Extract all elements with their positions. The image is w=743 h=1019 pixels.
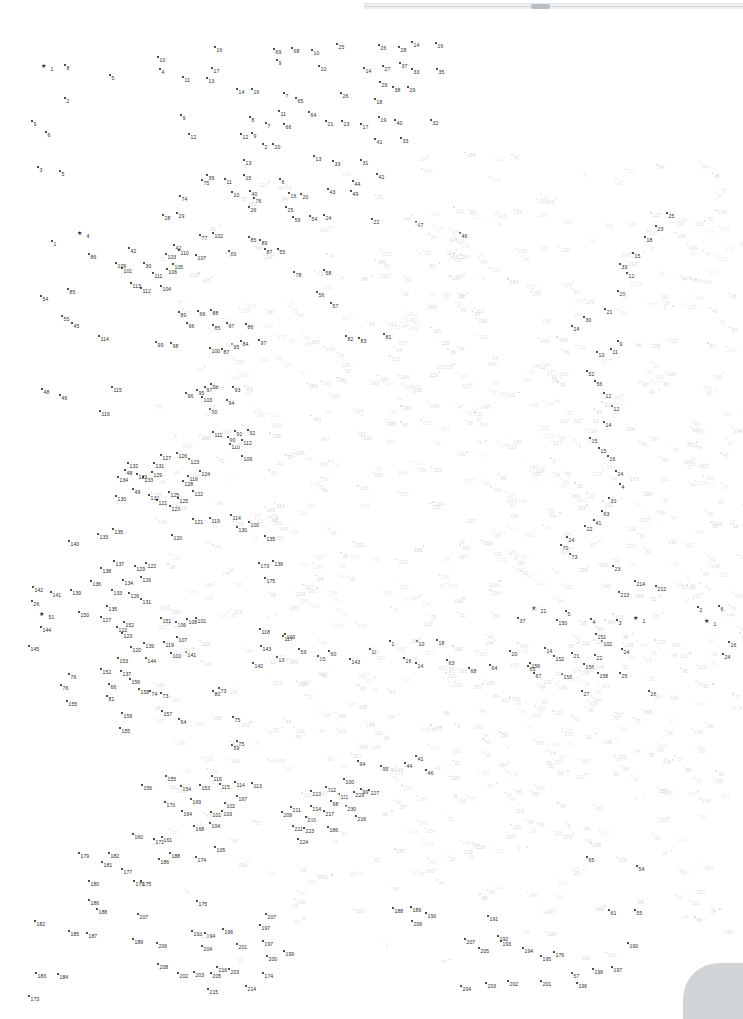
dot-number-label: 117	[561, 419, 569, 424]
dot-marker	[455, 723, 457, 725]
dot-marker	[468, 209, 470, 211]
dot-marker	[264, 535, 266, 537]
dot-marker	[113, 560, 115, 562]
dot-number-label: 25	[450, 857, 456, 862]
dot-marker	[203, 813, 205, 815]
dot-number-label: 29	[651, 651, 657, 656]
dot-marker	[569, 437, 571, 439]
dot-number-label: 13	[316, 157, 322, 162]
dot-number-label: 186	[330, 828, 339, 833]
dot-marker	[452, 645, 454, 647]
dot-number-label: 63	[328, 757, 334, 762]
dot-number-label: 45	[516, 702, 522, 707]
dot-number-label: 109	[619, 727, 628, 732]
dot-number-label: 187	[266, 310, 275, 315]
dot-number-label: 158	[272, 434, 281, 439]
dot-number-label: 223	[273, 681, 282, 686]
dot-number-label: 17	[393, 608, 399, 613]
dot-number-label: 39	[310, 818, 316, 823]
dot-number-label: 52	[646, 549, 652, 554]
dot-marker	[430, 724, 432, 726]
dot-marker	[193, 971, 195, 973]
dot-marker	[106, 605, 108, 607]
dot-marker	[657, 520, 659, 522]
dot-number-label: 178	[477, 253, 486, 258]
dot-number-label: 203	[196, 973, 205, 978]
dot-marker	[737, 554, 739, 556]
dot-number-label: 63	[389, 690, 395, 695]
dot-marker	[572, 833, 574, 835]
dot-marker	[495, 639, 497, 641]
dot-number-label: 33	[477, 412, 483, 417]
dot-marker	[534, 531, 536, 533]
dot-marker	[482, 683, 484, 685]
dot-marker	[390, 606, 392, 608]
dot-number-label: 166	[430, 404, 439, 409]
dot-marker	[274, 502, 276, 504]
dot-number-label: 65	[298, 99, 304, 104]
dot-marker	[234, 430, 236, 432]
dot-marker	[313, 341, 315, 343]
dot-marker	[143, 262, 145, 264]
dot-number-label: 9	[517, 847, 520, 852]
dot-marker	[624, 543, 626, 545]
dot-number-label: 95	[529, 370, 535, 375]
dot-marker	[598, 829, 600, 831]
dot-number-label: 129	[283, 363, 292, 368]
dot-number-label: 62	[232, 742, 238, 747]
dot-marker	[398, 583, 400, 585]
dot-marker	[191, 443, 193, 445]
dot-number-label: 110	[173, 556, 181, 561]
dot-marker	[583, 299, 585, 301]
dot-marker	[484, 679, 486, 681]
dot-number-label: 55	[64, 317, 70, 322]
dot-marker	[675, 836, 677, 838]
dot-marker	[497, 935, 499, 937]
dot-marker	[547, 211, 549, 213]
dot-number-label: 230	[329, 591, 338, 596]
dot-number-label: 3	[40, 168, 43, 173]
dot-marker	[434, 363, 436, 365]
dot-number-label: 198	[584, 839, 593, 844]
dot-number-label: 202	[180, 974, 189, 979]
dot-marker	[345, 335, 347, 337]
dot-number-label: 77	[470, 797, 476, 802]
dot-marker	[538, 402, 540, 404]
dot-marker	[31, 600, 33, 602]
dot-number-label: 131	[324, 285, 333, 290]
dot-marker	[614, 757, 616, 759]
dot-marker	[141, 784, 143, 786]
dot-marker	[477, 334, 479, 336]
dot-number-label: 62	[618, 181, 624, 186]
dot-number-label: 61	[611, 911, 617, 916]
dot-number-label: 212	[628, 262, 637, 267]
dot-number-label: 10	[459, 294, 465, 299]
dot-number-label: 25	[690, 584, 696, 589]
dot-marker	[527, 665, 529, 667]
dot-marker	[476, 518, 478, 520]
dot-marker	[487, 915, 489, 917]
dot-number-label: 73	[696, 446, 702, 451]
dot-marker	[565, 823, 567, 825]
dot-marker	[140, 880, 142, 882]
dot-number-label: 12	[539, 365, 545, 370]
dot-marker	[353, 908, 355, 910]
dot-number-label: 30	[708, 639, 714, 644]
dot-marker	[478, 706, 480, 708]
dot-number-label: 114	[446, 251, 454, 256]
dot-marker	[595, 633, 597, 635]
dot-marker	[623, 642, 625, 644]
dot-marker	[542, 524, 544, 526]
dot-marker	[120, 670, 122, 672]
dot-number-label: 83	[361, 339, 367, 344]
dot-number-label: 81	[386, 335, 392, 340]
dot-number-label: 18	[377, 100, 383, 105]
dot-number-label: 30	[690, 483, 696, 488]
dot-number-label: 127	[501, 698, 510, 703]
dot-marker	[532, 377, 534, 379]
dot-marker	[160, 454, 162, 456]
dot-number-label: 188	[99, 910, 108, 915]
dot-marker	[70, 589, 72, 591]
dot-number-label: 123	[253, 409, 262, 414]
dot-marker	[247, 861, 249, 863]
